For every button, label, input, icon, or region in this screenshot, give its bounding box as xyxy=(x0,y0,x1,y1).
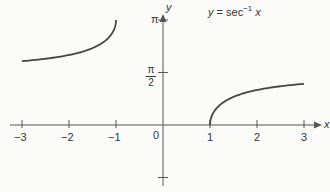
x-tick-label: 2 xyxy=(254,131,260,143)
y-axis-label: y xyxy=(166,1,172,13)
y-tick-label-pi-over-2: π 2 xyxy=(146,65,156,88)
x-axis-label: x xyxy=(324,118,330,130)
fraction-numerator: π xyxy=(148,64,155,75)
x-tick-label: −2 xyxy=(61,131,74,143)
y-axis-arrow-icon xyxy=(160,14,167,22)
x-tick-label: −3 xyxy=(14,131,27,143)
x-tick-label: 1 xyxy=(207,131,213,143)
fraction-denominator: 2 xyxy=(148,77,154,88)
x-tick-label: 3 xyxy=(301,131,307,143)
plot-area xyxy=(0,0,330,192)
x-tick-label: −1 xyxy=(108,131,121,143)
y-tick-label-pi: π xyxy=(151,13,159,25)
curve-right-branch xyxy=(210,84,304,125)
origin-label: 0 xyxy=(153,129,159,141)
chart-title: y = sec−1 x xyxy=(208,4,261,18)
x-axis-arrow-icon xyxy=(314,122,322,129)
curve-left-branch xyxy=(22,20,116,61)
